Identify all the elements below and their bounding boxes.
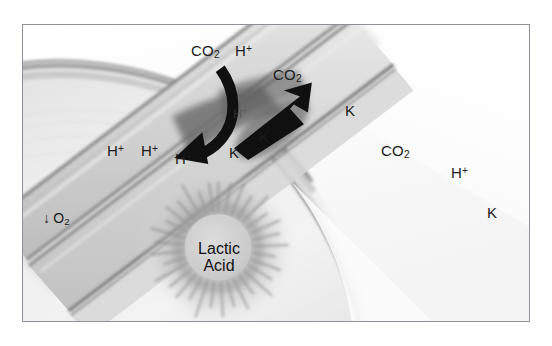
label-k-mid-high: K — [259, 129, 269, 144]
figure-canvas: CO2 H+ CO2 H+ H+ H+ H+ K — [0, 0, 552, 346]
label-co2-vessel: CO2 — [381, 143, 410, 160]
label-h-faint-mid: H+ — [233, 107, 248, 120]
label-h-top: H+ — [235, 43, 252, 58]
label-k-vessel-lower: K — [487, 205, 497, 220]
label-k-vessel-upper: K — [345, 103, 355, 118]
label-k-mid-low: K — [229, 145, 239, 160]
label-h-vessel: H+ — [451, 165, 468, 180]
label-h-left-3: H+ — [175, 151, 192, 166]
lactic-acid-line-2: Acid — [183, 257, 255, 274]
label-o2-decrease: ↓O2 — [43, 211, 70, 226]
label-co2-top: CO2 — [191, 43, 220, 60]
figure-frame: CO2 H+ CO2 H+ H+ H+ H+ K — [22, 24, 530, 322]
illustration-artwork: CO2 H+ CO2 H+ H+ H+ H+ K — [23, 25, 529, 321]
label-h-left-1: H+ — [107, 143, 124, 158]
label-co2-arrow: CO2 — [273, 67, 302, 84]
label-h-left-2: H+ — [141, 143, 158, 158]
label-lactic-acid: Lactic Acid — [183, 240, 255, 274]
down-arrow-icon: ↓ — [43, 210, 50, 226]
lactic-acid-line-1: Lactic — [183, 240, 255, 257]
